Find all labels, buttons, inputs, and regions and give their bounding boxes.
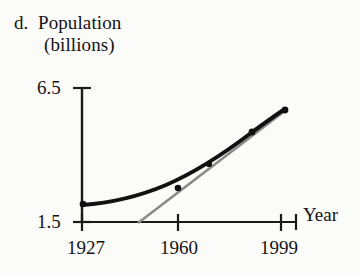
population-chart-figure: d.Population (billions) 6.5 1.5 Year xyxy=(0,0,360,276)
y-axis-tick-label-top: 6.5 xyxy=(37,78,61,97)
x-axis-tick-label-1999: 1999 xyxy=(260,238,298,257)
x-axis-name-label: Year xyxy=(303,205,338,224)
data-point-1927 xyxy=(80,201,87,208)
x-axis-tick-label-1927: 1927 xyxy=(67,238,105,257)
x-axis-tick-label-1960: 1960 xyxy=(160,238,198,257)
data-point-secant-1960 xyxy=(175,185,182,192)
data-point-curve-upper xyxy=(249,129,256,136)
population-curve xyxy=(82,109,285,205)
data-point-1999 xyxy=(282,107,289,114)
plot-area xyxy=(0,0,360,276)
secant-line xyxy=(138,110,286,223)
y-axis-tick-label-bottom: 1.5 xyxy=(37,212,61,231)
data-point-curve-mid xyxy=(206,161,212,167)
